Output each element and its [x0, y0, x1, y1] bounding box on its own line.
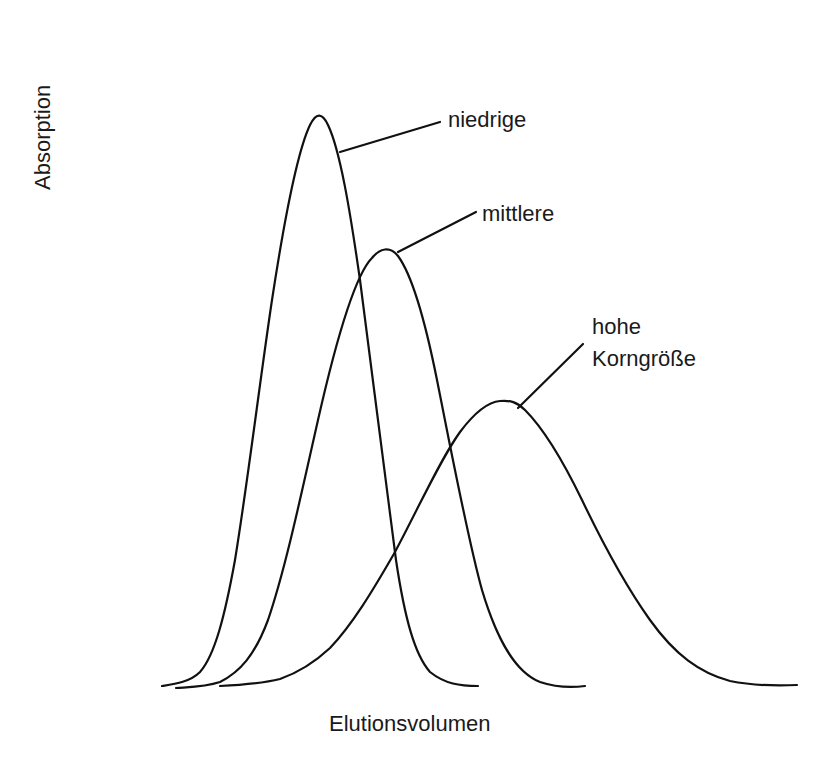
x-axis-label: Elutionsvolumen: [329, 711, 490, 736]
y-axis-label: Absorption: [30, 85, 55, 190]
curve-mittlere: [176, 249, 585, 688]
leader-niedrige: [340, 122, 440, 152]
label-niedrige: niedrige: [448, 107, 526, 132]
elution-chart: Absorption niedrige mittlere hohe Korngr…: [0, 0, 838, 759]
label-hohe-line1: hohe: [592, 314, 641, 339]
curve-niedrige: [162, 116, 478, 686]
label-hohe-line2: Korngröße: [592, 346, 696, 371]
label-mittlere: mittlere: [482, 201, 554, 226]
leader-hohe: [518, 344, 583, 408]
leader-mittlere: [398, 212, 476, 252]
curve-hohe-korngroesse: [220, 401, 797, 686]
